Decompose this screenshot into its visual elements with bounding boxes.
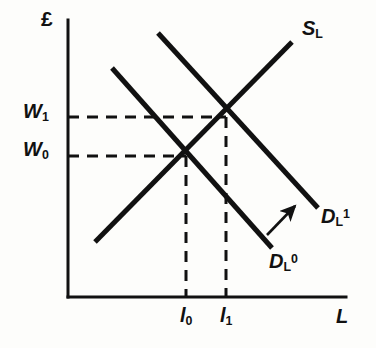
x-tick-l1-sub: 1: [226, 314, 233, 328]
supply-label-sub: L: [315, 27, 323, 41]
y-tick-w0-sub: 0: [42, 148, 49, 162]
demand-dl0-sub: L: [283, 260, 291, 274]
y-tick-label-w0: W0: [23, 139, 49, 161]
demand-curve-dl1: [158, 33, 318, 208]
demand-shift-arrow: [267, 206, 295, 235]
demand-dl0-base: D: [269, 250, 283, 272]
demand-dl1-sub: L: [335, 215, 343, 229]
demand-curve-label-dl1: DL1: [321, 206, 350, 228]
demand-dl1-sup: 1: [343, 207, 350, 221]
supply-label-base: S: [302, 17, 315, 39]
x-tick-l0-sub: 0: [186, 314, 193, 328]
y-tick-label-w1: W1: [23, 101, 49, 123]
y-axis-label: £: [41, 8, 53, 29]
guide-lines: [68, 117, 226, 297]
demand-curve-label-dl0: DL0: [269, 251, 298, 273]
demand-curve-dl0: [112, 68, 272, 248]
diagram-canvas: [0, 0, 376, 348]
x-axis-label: L: [336, 306, 348, 326]
supply-curve-label: SL: [302, 18, 323, 40]
x-tick-label-l0: l0: [180, 305, 192, 327]
x-tick-label-l1: l1: [220, 305, 232, 327]
demand-dl1-base: D: [321, 205, 335, 227]
x-axis-label-text: L: [336, 305, 348, 327]
y-tick-w0-base: W: [23, 138, 42, 160]
y-tick-w1-base: W: [23, 100, 42, 122]
axis-lines: [68, 20, 346, 297]
supply-demand-figure: £ W1 W0 l0 l1 L SL DL1 DL0: [0, 0, 376, 348]
demand-dl0-sup: 0: [291, 252, 298, 266]
y-tick-w1-sub: 1: [42, 110, 49, 124]
y-axis-label-text: £: [41, 7, 53, 30]
